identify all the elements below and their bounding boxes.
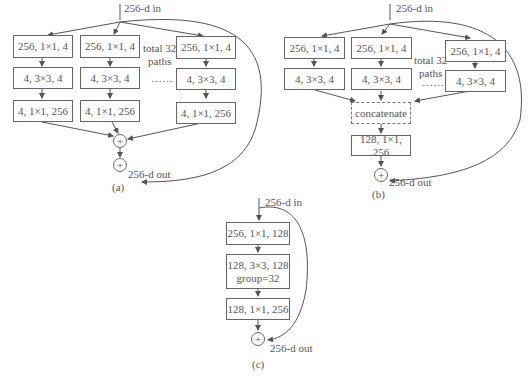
panel-c-group-count: group=32 [237,272,280,285]
panel-b-input-label: 256-d in [396,2,433,14]
panel-b-col2-conv1: 256, 1×1, 4 [351,37,412,59]
panel-a-col2-conv2: 4, 3×3, 4 [80,67,140,89]
panel-c-grouped-conv-spec: 128, 3×3, 128 [227,259,288,272]
panel-a-ellipsis: …… [151,72,173,84]
panel-b-caption: (b) [372,188,385,200]
panel-c-input-label: 256-d in [265,196,302,208]
panel-a-residual-add-node: + [113,158,127,172]
panel-a-col3-conv3: 4, 1×1, 256 [176,102,236,124]
panel-c-residual-add-node: + [251,332,265,346]
panel-a-sum-node: + [113,134,127,148]
panel-a-input-label: 256-d in [124,2,161,14]
panel-b-col1-conv1: 256, 1×1, 4 [284,37,345,59]
panel-b-output-label: 256-d out [389,176,431,188]
panel-b-col1-conv2: 4, 3×3, 4 [284,68,345,90]
panel-a-col3-conv1: 256, 1×1, 4 [176,36,236,59]
panel-a-col1-conv2: 4, 3×3, 4 [13,67,73,89]
panel-c-conv3: 128, 1×1, 256 [226,298,290,320]
panel-c-conv1: 256, 1×1, 128 [226,222,290,245]
panel-b-concatenate: concatenate [351,102,411,124]
panel-c-caption: (c) [252,358,264,370]
panel-b-final-conv: 128, 1×1, 256 [351,135,411,156]
panel-b-ellipsis: …… [422,76,444,88]
panel-a-col1-conv1: 256, 1×1, 4 [13,35,73,58]
panel-a-col2-conv1: 256, 1×1, 4 [80,35,140,58]
panel-a-caption: (a) [112,181,124,193]
panel-a-output-label: 256-d out [128,168,170,180]
panel-a-col3-conv2: 4, 3×3, 4 [176,68,236,90]
panel-a-col1-conv3: 4, 1×1, 256 [13,100,73,122]
panel-b-col2-conv2: 4, 3×3, 4 [351,68,412,90]
panel-b-col3-conv2: 4, 3×3, 4 [445,70,506,92]
panel-a-col2-conv3: 4, 1×1, 256 [80,100,140,122]
panel-c-output-label: 256-d out [270,342,312,354]
panel-b-residual-add-node: + [374,168,388,182]
panel-a-paths-note: total 32 paths [143,42,176,68]
panel-c-grouped-conv: 128, 3×3, 128 group=32 [226,254,290,289]
panel-b-col3-conv1: 256, 1×1, 4 [445,40,506,62]
